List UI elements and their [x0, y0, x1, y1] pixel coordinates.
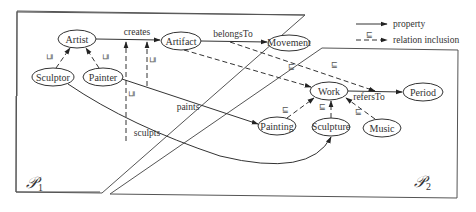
partition-p1-label: 𝒫1	[26, 174, 43, 193]
incl-painting-work	[287, 98, 314, 118]
svg-text:⊑: ⊑	[319, 102, 326, 111]
svg-text:⊑: ⊑	[101, 53, 110, 60]
svg-text:Music: Music	[370, 123, 396, 134]
incl-painter-artist	[86, 48, 99, 68]
label-refersto: refersTo	[353, 92, 385, 102]
svg-text:⊑: ⊑	[127, 90, 136, 97]
partition-p2-label: 𝒫2	[414, 173, 431, 192]
label-sculpts: sculpts	[134, 128, 161, 138]
svg-text:Period: Period	[410, 87, 436, 98]
node-artifact: Artifact	[161, 32, 201, 50]
svg-text:⊑: ⊑	[331, 60, 338, 69]
svg-text:Sculptor: Sculptor	[36, 72, 71, 83]
node-work: Work	[310, 82, 348, 100]
svg-text:Artist: Artist	[66, 34, 89, 45]
svg-text:Artifact: Artifact	[165, 36, 196, 47]
svg-text:⊑: ⊑	[288, 62, 295, 71]
label-belongsto: belongsTo	[213, 29, 253, 39]
svg-text:Sculpture: Sculpture	[312, 121, 351, 132]
legend-inclusion-label: relation inclusion	[393, 35, 459, 45]
svg-text:Painting: Painting	[260, 121, 293, 132]
legend: property ⊑ relation inclusion	[356, 19, 459, 45]
node-sculptor: Sculptor	[32, 68, 74, 86]
edge-belongsto	[201, 41, 267, 42]
svg-text:⊑: ⊑	[148, 56, 157, 63]
incl-sculptor-artist	[56, 48, 70, 68]
svg-text:⊑: ⊑	[282, 105, 289, 114]
svg-text:⊑: ⊑	[355, 107, 362, 116]
edge-creates	[96, 39, 160, 40]
node-period: Period	[403, 83, 443, 101]
legend-property-label: property	[393, 19, 425, 29]
node-music: Music	[363, 119, 401, 137]
svg-text:⊑: ⊑	[45, 53, 54, 60]
legend-subsumption-symbol: ⊑	[366, 30, 373, 39]
svg-text:Painter: Painter	[89, 72, 118, 83]
label-paints: paints	[177, 102, 200, 112]
node-painter: Painter	[83, 68, 123, 86]
node-sculpture: Sculpture	[312, 118, 351, 136]
node-artist: Artist	[58, 30, 96, 48]
label-creates: creates	[124, 27, 151, 37]
ontology-diagram: Artist Sculptor Painter Artifact Movemen…	[0, 0, 476, 212]
node-painting: Painting	[258, 117, 296, 135]
node-movement: Movement	[267, 35, 311, 51]
svg-text:Work: Work	[318, 86, 340, 97]
svg-text:Movement: Movement	[267, 37, 311, 48]
